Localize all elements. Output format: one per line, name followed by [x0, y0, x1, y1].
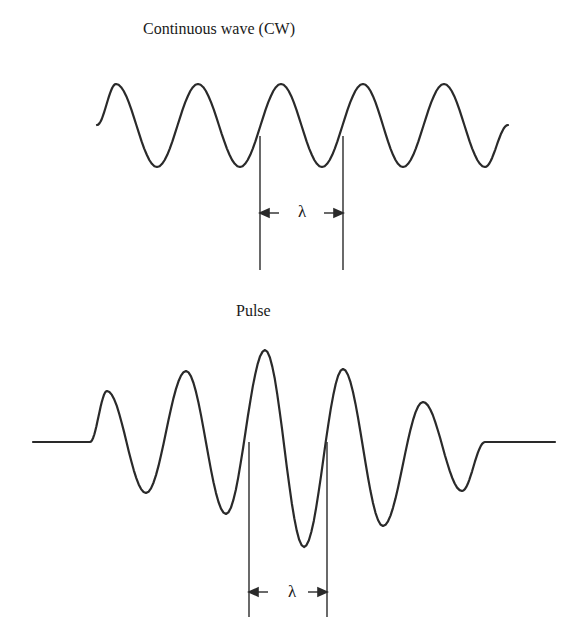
pulse-wavelength-label: λ [288, 582, 296, 602]
pulse-waveform [33, 350, 555, 547]
cw-wavelength-label: λ [298, 202, 306, 222]
cw-waveform [97, 84, 508, 167]
wave-comparison-figure: Continuous wave (CW) Pulse λ λ [0, 0, 585, 637]
waveform-canvas [0, 0, 585, 637]
